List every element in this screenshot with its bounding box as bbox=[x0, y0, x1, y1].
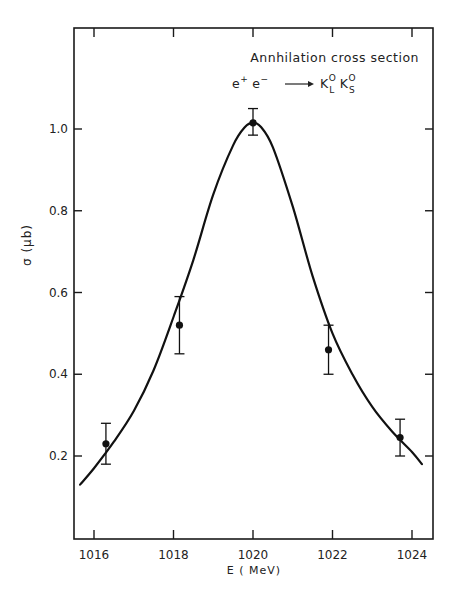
annotation-title: Annhilation cross section bbox=[250, 50, 419, 65]
y-tick-label: 1.0 bbox=[49, 122, 68, 136]
y-axis-tick-labels: 0.20.40.60.81.0 bbox=[49, 122, 68, 463]
fit-curve bbox=[80, 123, 422, 485]
data-point bbox=[248, 109, 258, 136]
x-axis-tick-labels: 10161018102010221024 bbox=[79, 548, 428, 562]
x-tick-label: 1022 bbox=[317, 548, 348, 562]
x-tick-label: 1024 bbox=[397, 548, 428, 562]
x-tick-label: 1018 bbox=[158, 548, 189, 562]
y-axis-ticks bbox=[74, 129, 433, 456]
x-tick-label: 1020 bbox=[238, 548, 269, 562]
x-axis-title: E ( MeV) bbox=[227, 564, 281, 577]
y-tick-label: 0.4 bbox=[49, 367, 68, 381]
data-points bbox=[101, 109, 405, 465]
x-axis-ticks bbox=[94, 28, 412, 539]
data-point bbox=[395, 419, 405, 456]
y-tick-label: 0.6 bbox=[49, 286, 68, 300]
y-axis-title: σ (μb) bbox=[20, 224, 34, 266]
plot-frame bbox=[74, 28, 433, 539]
y-tick-label: 0.8 bbox=[49, 204, 68, 218]
point-marker bbox=[325, 346, 332, 353]
x-tick-label: 1016 bbox=[79, 548, 110, 562]
point-marker bbox=[176, 322, 183, 329]
reaction-arrow-icon bbox=[285, 81, 314, 87]
point-marker bbox=[249, 119, 256, 126]
point-marker bbox=[396, 434, 403, 441]
chart-annotation: Annhilation cross section e+e− KOLKOS bbox=[232, 50, 419, 95]
point-marker bbox=[102, 440, 109, 447]
y-tick-label: 0.2 bbox=[49, 449, 68, 463]
annotation-reaction: e+e− bbox=[232, 74, 269, 91]
cross-section-chart: 10161018102010221024 0.20.40.60.81.0 E (… bbox=[0, 0, 462, 602]
annotation-kaons: KOLKOS bbox=[320, 73, 356, 95]
data-point bbox=[174, 297, 184, 354]
